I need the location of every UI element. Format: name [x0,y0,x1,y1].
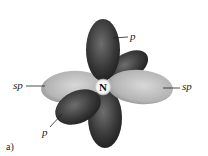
label-sp-left: sp [13,80,23,91]
figure-caption: a) [6,141,14,152]
p-orbital-top-lobe [86,19,120,81]
label-sp-right: sp [182,81,192,92]
atom-label: N [96,81,110,93]
label-p-top: p [130,31,136,42]
label-p-front: p [42,127,48,138]
orbital-diagram [0,0,208,156]
